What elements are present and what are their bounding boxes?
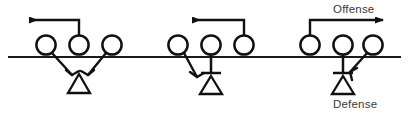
motion-arrow-left-group bbox=[30, 20, 79, 35]
defense-label: Defense bbox=[333, 98, 377, 110]
offensive-player-circle bbox=[168, 35, 187, 54]
diagram-canvas: Offense Defense bbox=[0, 0, 409, 113]
offensive-player-circle bbox=[363, 35, 382, 54]
offensive-player-circle bbox=[102, 35, 121, 54]
offensive-player-circle bbox=[201, 35, 220, 54]
offensive-player-circle bbox=[333, 35, 352, 54]
offensive-player-circle bbox=[36, 35, 55, 54]
motion-arrow-middle-group bbox=[193, 20, 244, 35]
defender-marker-middle bbox=[200, 76, 222, 94]
offensive-player-circle bbox=[234, 35, 253, 54]
offense-label: Offense bbox=[333, 3, 374, 15]
football-formation-diagram: Offense Defense bbox=[0, 0, 409, 113]
offensive-player-circle bbox=[300, 35, 319, 54]
motion-arrow-right-group bbox=[310, 20, 383, 35]
offensive-player-circle bbox=[69, 35, 88, 54]
defender-marker-left bbox=[68, 74, 90, 93]
